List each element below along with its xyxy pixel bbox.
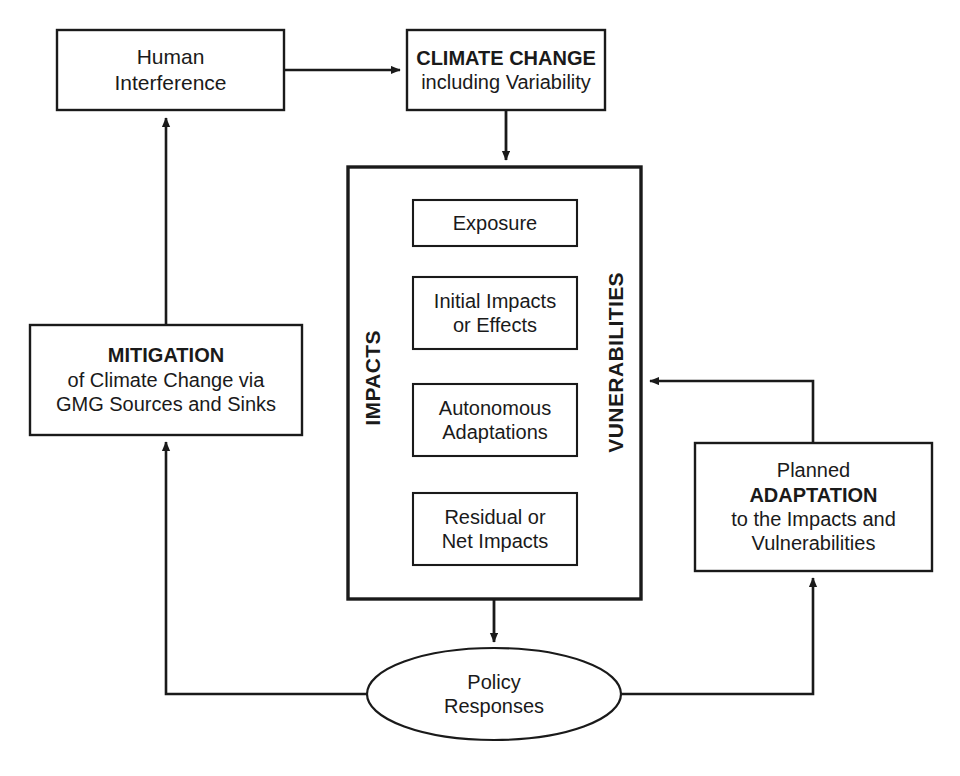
- climate-change-box: [407, 30, 605, 110]
- mitigation-box: [30, 325, 302, 435]
- human-interference-box: [57, 30, 284, 110]
- cropped-caption-artifact: [0, 758, 960, 776]
- impacts-vertical-label: IMPACTS: [361, 330, 385, 426]
- edge-policy-to-adaptation: [621, 578, 813, 694]
- residual-net-impacts-box: [413, 493, 577, 565]
- policy-responses-ellipse: [367, 648, 621, 740]
- vulnerabilities-vertical-label: VUNERABILITIES: [604, 272, 628, 453]
- planned-adaptation-box: [695, 443, 932, 571]
- initial-impacts-box: [413, 277, 577, 349]
- autonomous-adaptations-box: [413, 384, 577, 456]
- edge-adaptation-to-impacts: [650, 381, 813, 443]
- diagram-canvas: Human Interference CLIMATE CHANGE includ…: [0, 0, 960, 776]
- exposure-box: [413, 200, 577, 246]
- diagram-graphics: [0, 0, 960, 776]
- edge-policy-to-mitigation: [166, 442, 367, 694]
